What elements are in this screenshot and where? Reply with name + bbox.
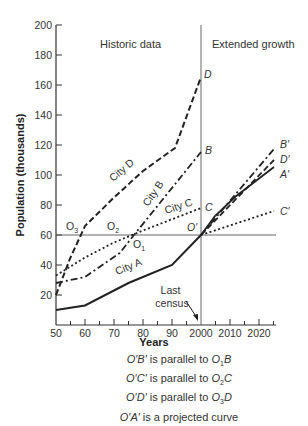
historic-data-label: Historic data	[100, 38, 162, 50]
y-tick-label: 180	[34, 49, 52, 61]
note-line: O′D′ is parallel to O3D	[0, 390, 308, 409]
y-axis-title: Population (thousands)	[14, 113, 26, 236]
note-line: O′A′ is a projected curve	[0, 410, 308, 425]
y-ticks	[56, 25, 62, 295]
city-a-label: City A	[113, 255, 143, 276]
x-ticks	[71, 319, 274, 325]
point-d-prime-label: D′	[280, 153, 291, 165]
y-tick-label: 20	[40, 289, 52, 301]
point-o3-label: O3	[66, 220, 78, 234]
point-o-prime-label: O′	[187, 221, 198, 233]
point-o1-label: O1	[133, 238, 145, 252]
city-b-label: City B	[140, 178, 166, 208]
city-d-projection	[201, 160, 274, 235]
point-d-label: D	[204, 68, 212, 80]
point-o2-label: O2	[107, 220, 119, 234]
last-census-label: Last census	[155, 284, 188, 309]
point-a-prime-label: A′	[279, 168, 290, 180]
y-tick-label: 100	[34, 169, 52, 181]
y-tick-label: 160	[34, 79, 52, 91]
point-b-label: B	[205, 144, 212, 156]
y-tick-label: 60	[40, 229, 52, 241]
point-b-prime-label: B′	[280, 138, 290, 150]
y-tick-labels: 200 180 160 140 120 100 80 60 40 20	[34, 19, 52, 301]
y-tick-label: 40	[40, 259, 52, 271]
city-b-projection	[201, 149, 274, 235]
y-tick-label: 120	[34, 139, 52, 151]
arrowhead-icon	[193, 314, 198, 321]
chart-notes: O′B′ is parallel to O1B O′C′ is parallel…	[0, 352, 308, 425]
point-c-prime-label: C′	[280, 205, 291, 217]
city-c-label: City C	[163, 196, 194, 216]
note-line: O′C′ is parallel to O2C	[0, 371, 308, 390]
y-tick-label: 140	[34, 109, 52, 121]
y-tick-label: 80	[40, 199, 52, 211]
x-axis-title: Years	[0, 336, 308, 348]
point-c-label: C	[205, 201, 213, 213]
y-tick-label: 200	[34, 19, 52, 31]
city-d-label: City D	[107, 156, 137, 184]
extended-growth-label: Extended growth	[212, 38, 295, 50]
note-line: O′B′ is parallel to O1B	[0, 352, 308, 371]
